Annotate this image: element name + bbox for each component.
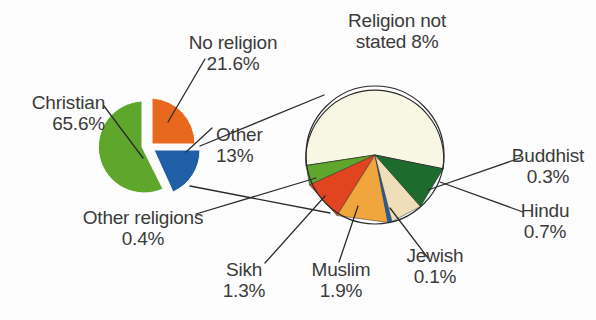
label-no-religion: No religion 21.6% — [168, 32, 298, 75]
label-buddhist-name: Buddhist — [500, 145, 596, 166]
label-muslim: Muslim 1.9% — [300, 259, 382, 302]
label-religion-not-stated-line2: stated 8% — [322, 31, 472, 52]
slice-no-religion — [152, 98, 195, 144]
label-jewish: Jewish 0.1% — [396, 245, 474, 288]
label-other: Other 13% — [216, 124, 296, 167]
label-christian: Christian 65.6% — [0, 92, 105, 135]
label-hindu-name: Hindu — [502, 200, 588, 221]
label-sikh-name: Sikh — [213, 259, 275, 280]
label-other-name: Other — [216, 124, 296, 145]
label-religion-not-stated: Religion not stated 8% — [322, 10, 472, 53]
label-jewish-name: Jewish — [396, 245, 474, 266]
label-other-religions-value: 0.4% — [78, 228, 208, 249]
label-no-religion-name: No religion — [168, 32, 298, 53]
label-sikh-value: 1.3% — [213, 280, 275, 301]
label-muslim-value: 1.9% — [300, 280, 382, 301]
label-sikh: Sikh 1.3% — [213, 259, 275, 302]
label-buddhist-value: 0.3% — [500, 166, 596, 187]
leader-other-religions — [196, 178, 316, 214]
detail-pie-group — [306, 86, 444, 224]
label-buddhist: Buddhist 0.3% — [500, 145, 596, 188]
label-muslim-name: Muslim — [300, 259, 382, 280]
label-religion-not-stated-line1: Religion not — [322, 10, 472, 31]
label-other-religions-name: Other religions — [78, 207, 208, 228]
label-christian-value: 65.6% — [0, 113, 105, 134]
label-hindu-value: 0.7% — [502, 221, 588, 242]
label-no-religion-value: 21.6% — [168, 53, 298, 74]
label-other-value: 13% — [216, 145, 296, 166]
label-other-religions: Other religions 0.4% — [78, 207, 208, 250]
main-pie-group — [98, 98, 200, 193]
label-jewish-value: 0.1% — [396, 266, 474, 287]
pie-chart-figure: Christian 65.6% No religion 21.6% Other … — [0, 0, 596, 320]
label-christian-name: Christian — [0, 92, 105, 113]
label-hindu: Hindu 0.7% — [502, 200, 588, 243]
